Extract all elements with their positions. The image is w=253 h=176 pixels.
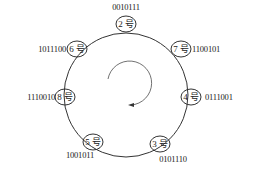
node-label: 2 号 bbox=[118, 19, 134, 29]
node-7: 7 号 1100101 bbox=[171, 41, 220, 57]
node-code: 1001011 bbox=[66, 150, 94, 160]
node-label: 8 号 bbox=[57, 92, 73, 102]
node-6: 6 号 1011100 bbox=[38, 41, 87, 57]
node-code: 1100101 bbox=[192, 44, 220, 54]
ring-diagram: 2 号 0010111 7 号 1100101 4 号 0111001 3 号 … bbox=[0, 0, 253, 176]
node-2: 2 号 0010111 bbox=[112, 2, 140, 32]
rotation-arrow bbox=[108, 61, 152, 107]
node-code: 1110010 bbox=[27, 92, 55, 102]
node-4: 4 号 0111001 bbox=[181, 89, 233, 105]
node-label: 3 号 bbox=[152, 139, 168, 149]
node-8: 8 号 1110010 bbox=[27, 89, 75, 105]
node-code: 0101110 bbox=[159, 154, 187, 164]
node-label: 4 号 bbox=[183, 92, 199, 102]
node-code: 1011100 bbox=[38, 44, 66, 54]
node-code: 0010111 bbox=[112, 2, 140, 12]
arrow-head-icon bbox=[128, 103, 134, 107]
node-label: 6 号 bbox=[69, 44, 85, 54]
node-code: 0111001 bbox=[205, 92, 233, 102]
node-label: 5 号 bbox=[85, 137, 101, 147]
rotation-arc bbox=[108, 61, 152, 105]
node-5: 5 号 1001011 bbox=[66, 134, 103, 160]
node-label: 7 号 bbox=[173, 44, 189, 54]
